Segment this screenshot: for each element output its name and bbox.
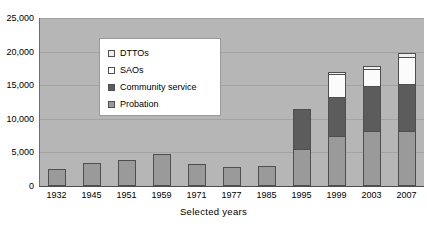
gridline [39, 52, 424, 53]
bar-segment-dttos [398, 53, 416, 57]
bar-segment-dttos [363, 66, 381, 70]
community-service-swatch-icon [108, 84, 115, 91]
y-axis-tick-label: 0 [29, 182, 34, 191]
bar-segment-probation [363, 131, 381, 186]
x-axis-tick-label: 1932 [37, 190, 77, 201]
chart-container: 05,00010,00015,00020,00025,000 DTTOs SAO… [0, 0, 427, 230]
bar-segment-saos [363, 69, 381, 87]
x-axis-line [39, 186, 424, 187]
plot-area: DTTOs SAOs Community service Probation [39, 18, 424, 186]
bar-segment-dttos [328, 72, 346, 75]
y-axis-tick-label: 20,000 [6, 48, 34, 57]
x-axis-tick-label: 1995 [282, 190, 322, 201]
bar-segment-probation [398, 131, 416, 186]
saos-swatch-icon [108, 67, 115, 74]
x-axis-tick-label: 1971 [177, 190, 217, 201]
probation-swatch-icon [108, 101, 115, 108]
bar-segment-saos [328, 74, 346, 98]
y-axis-tick-label: 5,000 [11, 148, 34, 157]
legend-label-probation: Probation [120, 100, 159, 109]
gridline [39, 18, 424, 19]
legend-label-dttos: DTTOs [120, 49, 149, 58]
bar-segment-probation [188, 164, 206, 187]
bar-segment-probation [328, 136, 346, 186]
bar-segment-probation [48, 169, 66, 186]
x-axis-labels: 1932194519511959197119771985199519992003… [39, 190, 424, 206]
bar-segment-probation [293, 149, 311, 186]
legend-label-community-service: Community service [120, 83, 197, 92]
y-axis-line [39, 18, 40, 187]
bar-segment-probation [223, 167, 241, 186]
bar-segment-probation [83, 163, 101, 186]
x-axis-tick-label: 1951 [107, 190, 147, 201]
y-axis-tick-label: 10,000 [6, 115, 34, 124]
bar-segment-saos [398, 57, 416, 86]
y-axis-tick-label: 15,000 [6, 81, 34, 90]
legend-item-dttos: DTTOs [108, 45, 220, 62]
y-axis-labels: 05,00010,00015,00020,00025,000 [0, 0, 36, 230]
x-axis-tick-label: 1959 [142, 190, 182, 201]
x-axis-tick-label: 1945 [72, 190, 112, 201]
bar-segment-probation [153, 154, 171, 186]
x-axis-title: Selected years [0, 206, 427, 217]
bar-segment-probation [118, 160, 136, 186]
x-axis-tick-label: 1985 [247, 190, 287, 201]
chart-legend: DTTOs SAOs Community service Probation [99, 38, 221, 116]
x-axis-tick-label: 2003 [352, 190, 392, 201]
bar-segment-community-service [293, 109, 311, 150]
bar-segment-community-service [398, 84, 416, 131]
bar-segment-probation [258, 166, 276, 186]
bar-segment-community-service [363, 86, 381, 133]
legend-item-community-service: Community service [108, 79, 220, 96]
y-axis-tick-label: 25,000 [6, 14, 34, 23]
legend-item-probation: Probation [108, 96, 220, 113]
legend-label-saos: SAOs [120, 66, 144, 75]
x-axis-tick-label: 2007 [387, 190, 427, 201]
x-axis-tick-label: 1977 [212, 190, 252, 201]
dttos-swatch-icon [108, 50, 115, 57]
bar-segment-community-service [328, 97, 346, 137]
x-axis-tick-label: 1999 [317, 190, 357, 201]
legend-item-saos: SAOs [108, 62, 220, 79]
